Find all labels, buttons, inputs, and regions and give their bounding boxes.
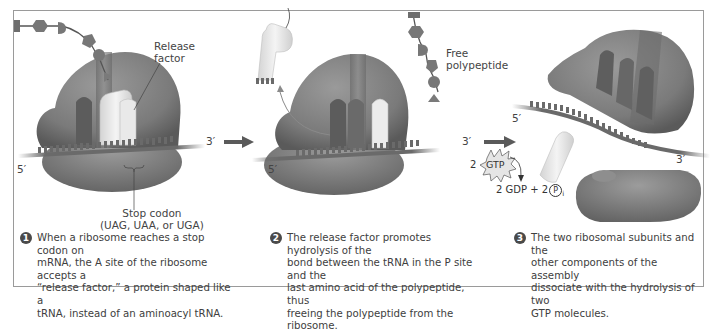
gtp-label: GTP	[486, 159, 505, 170]
three-prime-label-1: 3′	[206, 135, 215, 147]
panel-2-polypeptide-released	[252, 8, 440, 195]
step-3-text: The two ribosomal subunits and the other…	[531, 232, 704, 320]
phosphate-circle-icon: P	[549, 184, 562, 197]
phosphate-subscript: i	[562, 190, 564, 198]
gtp-count: 2	[470, 159, 476, 170]
five-prime-label-1: 5′	[17, 163, 26, 175]
stop-codon-label: Stop codon (UAG, UAA, or UGA)	[100, 207, 204, 231]
step-2-text: The release factor promotes hydrolysis o…	[287, 232, 485, 333]
step-3-badge: 3	[514, 232, 526, 244]
step-arrow-2	[484, 136, 516, 148]
five-prime-label-3: 5′	[512, 112, 521, 124]
three-prime-label-2: 3′	[462, 135, 471, 147]
step-1-badge: 1	[20, 232, 32, 244]
step-arrow-1	[224, 136, 254, 148]
step-1-text: When a ribosome reaches a stop codon on …	[37, 232, 235, 320]
three-prime-label-3: 3′	[676, 153, 685, 165]
step-2-badge: 2	[270, 232, 282, 244]
gdp-products-label: 2 GDP + 2Pi	[496, 184, 564, 198]
five-prime-label-2: 5′	[268, 163, 277, 175]
gdp-text: 2 GDP + 2	[496, 184, 548, 195]
release-factor-label: Release factor	[154, 40, 195, 64]
free-polypeptide-label: Free polypeptide	[446, 47, 508, 71]
